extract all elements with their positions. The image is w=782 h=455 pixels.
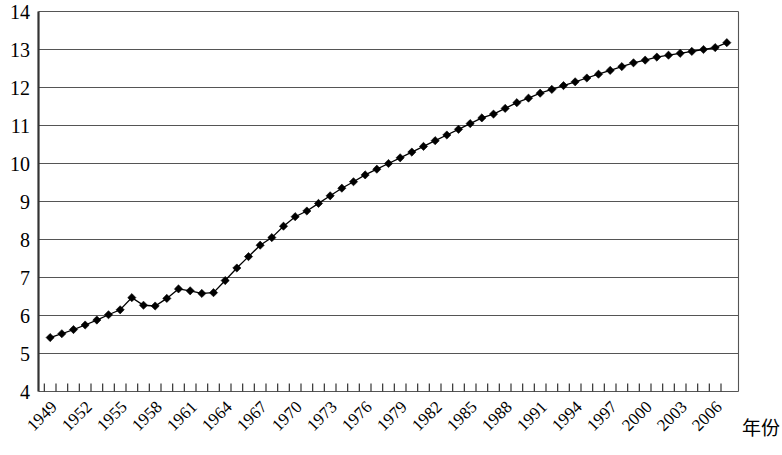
data-point-1980 [408, 148, 416, 156]
data-point-1972 [314, 199, 322, 207]
population-line-chart: 4567891011121314 19491952195519581961196… [0, 0, 782, 455]
data-point-1987 [489, 110, 497, 118]
data-point-1962 [198, 289, 206, 297]
data-point-1984 [454, 125, 462, 133]
data-point-1958 [151, 302, 159, 310]
data-point-1961 [186, 287, 194, 295]
data-point-1957 [139, 301, 147, 309]
y-tick-label-4: 4 [0, 382, 30, 402]
data-point-1993 [559, 82, 567, 90]
data-point-1988 [501, 104, 509, 112]
data-series-line [50, 43, 727, 338]
y-tick-label-6: 6 [0, 306, 30, 326]
data-point-1992 [548, 85, 556, 93]
data-point-1977 [373, 165, 381, 173]
data-point-1985 [466, 120, 474, 128]
data-point-1976 [361, 171, 369, 179]
data-point-2007 [723, 39, 731, 47]
data-point-1950 [58, 330, 66, 338]
data-point-1975 [349, 178, 357, 186]
data-point-1990 [524, 94, 532, 102]
data-point-1979 [396, 154, 404, 162]
data-point-1951 [69, 325, 77, 333]
x-axis-ticks [44, 384, 721, 392]
data-point-1998 [618, 63, 626, 71]
series-polyline [50, 43, 727, 338]
data-point-1953 [93, 316, 101, 324]
data-series-markers [46, 39, 731, 342]
data-point-1973 [326, 192, 334, 200]
y-tick-label-7: 7 [0, 268, 30, 288]
data-point-1999 [629, 59, 637, 67]
chart-canvas [0, 0, 782, 455]
data-point-2002 [664, 51, 672, 59]
data-point-1996 [594, 70, 602, 78]
data-point-2004 [688, 47, 696, 55]
data-point-1949 [46, 333, 54, 341]
data-point-1994 [571, 78, 579, 86]
data-point-1952 [81, 321, 89, 329]
data-point-1954 [104, 311, 112, 319]
y-tick-label-5: 5 [0, 344, 30, 364]
data-point-1981 [419, 142, 427, 150]
data-point-1974 [338, 184, 346, 192]
y-tick-label-10: 10 [0, 154, 30, 174]
data-point-2006 [711, 44, 719, 52]
data-point-1991 [536, 89, 544, 97]
data-point-2003 [676, 49, 684, 57]
data-point-2005 [699, 45, 707, 53]
data-point-2001 [653, 53, 661, 61]
data-point-1983 [443, 131, 451, 139]
y-tick-label-12: 12 [0, 78, 30, 98]
data-point-1989 [513, 99, 521, 107]
data-point-1995 [583, 74, 591, 82]
data-point-1997 [606, 66, 614, 74]
data-point-1971 [303, 207, 311, 215]
data-point-1978 [384, 159, 392, 167]
x-axis-title: 年份 [742, 413, 780, 440]
data-point-2000 [641, 56, 649, 64]
y-tick-label-14: 14 [0, 2, 30, 22]
y-tick-label-8: 8 [0, 230, 30, 250]
data-point-1982 [431, 137, 439, 145]
y-tick-label-11: 11 [0, 116, 30, 136]
y-tick-label-13: 13 [0, 40, 30, 60]
data-point-1986 [478, 114, 486, 122]
y-tick-label-9: 9 [0, 192, 30, 212]
